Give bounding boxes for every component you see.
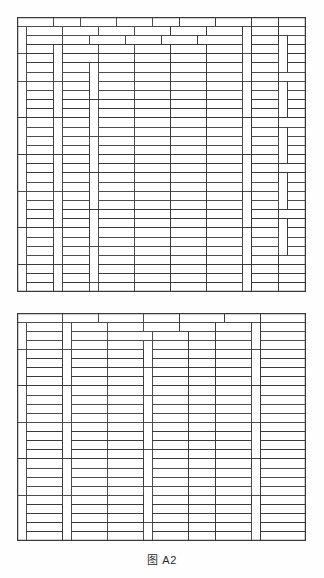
brick-tile [71,359,107,368]
brick-tile [189,340,216,349]
brick-tile [152,532,188,541]
brick-tile [107,340,143,349]
brick-tile [71,532,107,541]
brick-tile [225,313,261,322]
brick-tile [152,505,188,514]
brick-tile [107,322,143,331]
brick-tile [107,486,143,495]
brick-tile [216,322,252,331]
brick-tile [189,450,216,459]
brick-tile [216,477,252,486]
brick-tile [252,349,261,385]
brick-tile [207,100,243,109]
brick-tile [288,35,306,44]
brick-tile [216,340,252,349]
brick-tile [152,432,188,441]
brick-tile [98,155,134,164]
brick-tile [207,155,243,164]
brick-tile [98,228,134,237]
brick-tile [26,109,53,118]
brick-tile [98,45,134,54]
brick-tile [252,173,279,182]
brick-tile [252,54,279,63]
brick-tile [261,459,306,468]
brick-tile [26,127,53,136]
brick-tile [252,63,279,72]
brick-tile [152,477,188,486]
brick-tile [216,413,252,422]
brick-tile [71,349,107,358]
brick-tile [171,255,207,264]
brick-tile [26,63,53,72]
brick-tile [207,63,243,72]
brick-tile [261,477,306,486]
brick-tile [26,219,53,228]
brick-tile [143,322,179,331]
brick-tile [53,118,62,155]
brick-tile [26,340,62,349]
brick-tile [98,265,134,274]
brick-tile [26,486,62,495]
brick-tile [288,173,306,182]
brick-tile [261,404,306,413]
brick-tile [171,54,207,63]
brick-tile [261,377,306,386]
brick-tile [71,441,107,450]
brick-tile [98,63,134,72]
brick-tile [71,495,107,504]
brick-tile [288,54,306,63]
brick-tile [279,283,306,292]
brick-tile [89,210,98,247]
upper-lattice-panel [17,17,306,292]
brick-tile [189,477,216,486]
brick-tile [134,90,170,99]
brick-tile [62,386,71,422]
brick-tile [134,81,170,90]
brick-tile [189,422,216,431]
brick-tile [216,459,252,468]
brick-tile [152,523,188,532]
brick-tile [107,523,143,532]
brick-tile [116,17,152,26]
brick-tile [189,523,216,532]
brick-tile [71,459,107,468]
brick-tile [189,468,216,477]
brick-tile [26,118,53,127]
brick-tile [252,136,279,145]
brick-tile [17,228,26,265]
brick-tile [26,404,62,413]
brick-tile [98,136,134,145]
brick-tile [98,191,134,200]
brick-tile [134,127,170,136]
brick-tile [207,246,243,255]
brick-tile [171,173,207,182]
brick-tile [189,495,216,504]
brick-tile [180,17,216,26]
brick-tile [279,72,306,81]
brick-tile [134,219,170,228]
brick-tile [134,191,170,200]
brick-tile [26,532,62,541]
brick-tile [216,395,252,404]
brick-tile [252,386,261,422]
brick-tile [62,81,89,90]
brick-tile [189,413,216,422]
brick-tile [152,441,188,450]
brick-tile [98,118,134,127]
brick-tile [279,219,288,256]
brick-tile [252,182,279,191]
brick-tile [252,109,279,118]
brick-tile [207,109,243,118]
brick-tile [171,228,207,237]
brick-tile [288,155,306,164]
brick-tile [252,127,279,136]
brick-tile [62,495,71,541]
brick-tile [134,63,170,72]
brick-tile [134,283,170,292]
brick-tile [98,219,134,228]
brick-tile [71,322,107,331]
brick-tile [26,72,53,81]
brick-tile [189,441,216,450]
brick-tile [216,17,252,26]
brick-tile [243,81,252,118]
